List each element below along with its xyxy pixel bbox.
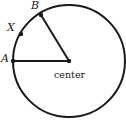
label-a: A	[0, 52, 9, 65]
label-center: center	[54, 69, 86, 80]
diagram-svg: A B X center	[0, 0, 126, 126]
point-b-dot	[39, 13, 43, 17]
label-x: X	[6, 21, 16, 34]
center-dot	[67, 59, 71, 63]
point-a-dot	[11, 59, 15, 63]
point-x-dot	[19, 32, 23, 36]
radius-b	[41, 15, 69, 61]
circle-diagram: A B X center	[0, 0, 126, 126]
label-b: B	[30, 0, 39, 12]
